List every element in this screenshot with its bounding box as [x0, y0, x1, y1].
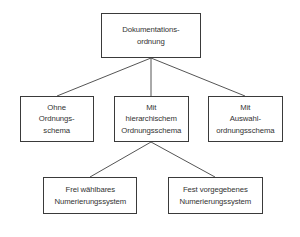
node-mit-auswahlordnungsschema[interactable]: Mit Auswahl- ordnungsschema: [208, 96, 283, 142]
edge-hier-to-fest: [151, 142, 215, 177]
node-fest-vorgegebenes-numerierungssystem[interactable]: Fest vorgegebenes Numerierungssystem: [168, 177, 263, 214]
node-frei-waehlbares-numerierungssystem[interactable]: Frei wählbares Numerierungssystem: [43, 177, 137, 214]
node-label: Mit Auswahl- ordnungsschema: [214, 102, 276, 136]
edge-hier-to-frei: [90, 142, 151, 177]
node-dokumentationsordnung[interactable]: Dokumentations- ordnung: [101, 13, 201, 58]
node-mit-hierarchischem-ordnungsschema[interactable]: Mit hierarchischem Ordnungsschema: [114, 96, 189, 142]
edge-root-to-auswahl: [151, 58, 245, 96]
node-label: Frei wählbares Numerierungssystem: [52, 184, 128, 207]
node-ohne-ordnungsschema[interactable]: Ohne Ordnungs- schema: [20, 96, 94, 142]
hierarchy-diagram: Dokumentations- ordnung Ohne Ordnungs- s…: [0, 0, 300, 237]
node-label: Dokumentations- ordnung: [120, 24, 181, 47]
edge-root-to-ohne: [57, 58, 151, 96]
node-label: Mit hierarchischem Ordnungsschema: [120, 102, 184, 136]
node-label: Ohne Ordnungs- schema: [37, 102, 77, 136]
node-label: Fest vorgegebenes Numerierungssystem: [178, 184, 254, 207]
